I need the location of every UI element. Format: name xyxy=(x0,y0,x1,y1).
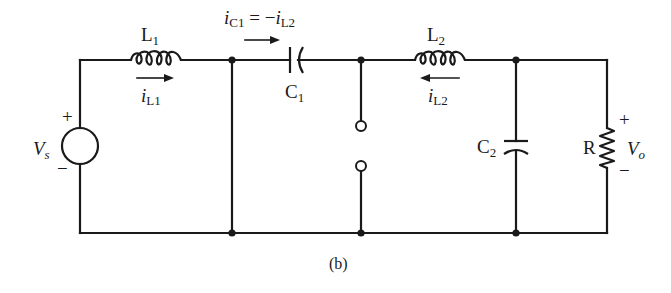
il1-label: iL1 xyxy=(141,85,161,108)
l2-label: L2 xyxy=(427,24,445,48)
il2-label: iL2 xyxy=(428,85,448,108)
circuit-diagram: + − Vs L1 iL1 C1 iC1 = −iL2 L2 iL2 C2 xyxy=(0,0,671,293)
wires xyxy=(80,60,607,233)
ic1-label: iC1 = −iL2 xyxy=(224,7,295,30)
capacitor-c1: C1 iC1 = −iL2 xyxy=(224,7,304,105)
arrow-left-icon xyxy=(420,74,430,82)
source-minus: − xyxy=(57,158,68,179)
r-label: R xyxy=(583,137,596,158)
inductor-l2: L2 iL2 xyxy=(415,24,465,108)
output-plus: + xyxy=(619,109,630,130)
capacitor-c2: C2 xyxy=(477,136,528,160)
voltage-source: + − Vs xyxy=(33,106,98,179)
c2-label: C2 xyxy=(477,136,496,160)
arrow-right-icon xyxy=(164,74,174,82)
switch-open xyxy=(356,121,366,171)
inductor-l1: L1 iL1 xyxy=(131,24,181,108)
c1-label: C1 xyxy=(285,81,304,105)
source-label: Vs xyxy=(33,138,50,162)
source-plus: + xyxy=(62,106,73,127)
junction-nodes xyxy=(228,56,519,236)
resistor-r: R xyxy=(583,128,614,168)
arrow-right-icon xyxy=(270,36,280,44)
output-minus: − xyxy=(619,160,630,181)
figure-caption: (b) xyxy=(329,255,348,273)
output-voltage: + − Vo xyxy=(619,109,646,181)
l1-label: L1 xyxy=(141,24,159,48)
output-label: Vo xyxy=(627,138,646,162)
